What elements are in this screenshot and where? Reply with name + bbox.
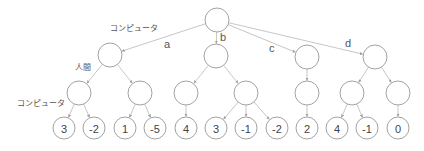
leaf-node: 0 — [387, 117, 409, 139]
node-circle — [340, 81, 364, 105]
node-circle — [98, 43, 122, 67]
move-label: a — [164, 39, 170, 50]
level-label: 人間 — [75, 64, 91, 72]
tree-edge — [224, 65, 239, 83]
tree-edge — [254, 102, 269, 119]
node-circle — [67, 81, 91, 105]
leaf-value: -5 — [150, 123, 160, 135]
leaf-value: 2 — [304, 123, 310, 135]
tree-node — [67, 81, 91, 105]
game-tree-diagram: 3-21-543-1-224-10 — [0, 0, 424, 151]
leaf-node: -2 — [83, 117, 105, 139]
tree-edge — [69, 104, 75, 117]
tree-edge — [145, 104, 151, 117]
leaf-value: -1 — [241, 123, 251, 135]
node-circle — [205, 8, 229, 32]
leaf-value: 4 — [334, 123, 340, 135]
tree-node — [295, 81, 319, 105]
leaf-node: 4 — [326, 117, 348, 139]
tree-node — [295, 45, 319, 69]
node-circle — [386, 81, 410, 105]
leaf-node: -5 — [144, 117, 166, 139]
leaf-node: 3 — [53, 117, 75, 139]
level-label: コンピュータ — [17, 100, 65, 108]
tree-nodes: 3-21-543-1-224-10 — [53, 8, 410, 139]
node-circle — [234, 81, 258, 105]
tree-edge — [223, 102, 238, 119]
node-circle — [295, 81, 319, 105]
leaf-value: 3 — [213, 123, 219, 135]
node-circle — [295, 45, 319, 69]
root-node — [205, 8, 229, 32]
leaf-node: 2 — [296, 117, 318, 139]
node-circle — [128, 81, 152, 105]
tree-edge — [357, 104, 363, 117]
tree-node — [98, 43, 122, 67]
tree-node — [340, 81, 364, 105]
leaf-node: -2 — [266, 117, 288, 139]
leaf-value: 1 — [122, 123, 128, 135]
tree-edge — [84, 104, 90, 117]
leaf-value: 4 — [183, 123, 189, 135]
leaf-value: -1 — [362, 123, 372, 135]
leaf-node: 4 — [175, 117, 197, 139]
tree-node — [204, 44, 228, 68]
move-label: c — [269, 43, 275, 54]
node-circle — [363, 45, 387, 69]
tree-node — [128, 81, 152, 105]
tree-edge — [130, 104, 136, 117]
tree-node — [363, 45, 387, 69]
node-circle — [204, 44, 228, 68]
tree-edge — [229, 23, 363, 54]
tree-node — [234, 81, 258, 105]
tree-edge — [342, 104, 348, 117]
tree-edge — [194, 65, 209, 83]
tree-edge — [228, 25, 295, 53]
leaf-node: 1 — [114, 117, 136, 139]
leaf-value: 3 — [61, 123, 67, 135]
tree-node — [386, 81, 410, 105]
leaf-node: -1 — [356, 117, 378, 139]
leaf-value: -2 — [89, 123, 99, 135]
level-label: コンピュータ — [110, 25, 158, 33]
leaf-node: -1 — [235, 117, 257, 139]
leaf-value: -2 — [272, 123, 282, 135]
tree-edge — [117, 64, 132, 83]
leaf-value: 0 — [395, 123, 401, 135]
tree-edge — [381, 67, 391, 82]
move-label: d — [345, 38, 351, 49]
node-circle — [174, 81, 198, 105]
tree-node — [174, 81, 198, 105]
move-label: b — [220, 32, 226, 43]
leaf-node: 3 — [205, 117, 227, 139]
tree-edge — [359, 67, 369, 82]
